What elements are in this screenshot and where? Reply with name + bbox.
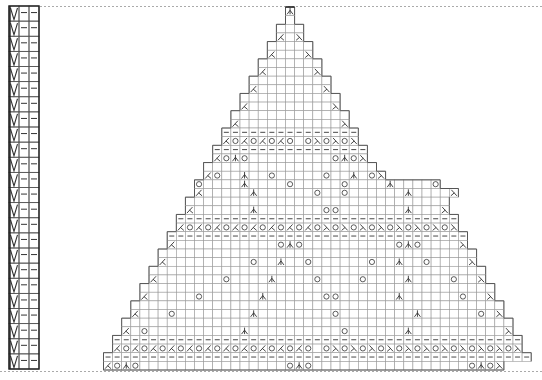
chart-row — [213, 145, 368, 154]
chart-row — [104, 361, 504, 370]
slip-stitch-icon — [11, 295, 18, 307]
slip-stitch-icon — [11, 280, 18, 292]
chart-row — [104, 353, 532, 362]
chart-row — [276, 33, 303, 42]
slip-stitch-icon — [11, 144, 18, 156]
slip-stitch-icon — [11, 356, 18, 368]
slip-stitch-icon — [11, 250, 18, 262]
chart-row — [240, 93, 340, 102]
slip-stitch-icon — [11, 220, 18, 232]
slip-stitch-icon — [11, 190, 18, 202]
slip-stitch-icon — [11, 129, 18, 141]
chart-row — [267, 50, 313, 59]
chart-row — [122, 318, 513, 327]
chart-row — [158, 258, 477, 267]
chart-row — [140, 284, 495, 293]
edge-stitch-column — [9, 6, 39, 369]
chart-row — [131, 301, 504, 310]
chart-row — [167, 240, 467, 249]
chart-row — [122, 327, 513, 336]
knitting-chart — [0, 0, 542, 380]
chart-row — [204, 163, 377, 172]
slip-stitch-icon — [11, 38, 18, 50]
chart-row — [113, 344, 522, 353]
slip-stitch-icon — [11, 8, 18, 20]
slip-stitch-icon — [11, 341, 18, 353]
chart-row — [231, 111, 349, 120]
slip-stitch-icon — [11, 265, 18, 277]
slip-stitch-icon — [11, 84, 18, 96]
slip-stitch-icon — [11, 99, 18, 111]
slip-stitch-icon — [11, 69, 18, 81]
chart-row — [249, 76, 331, 85]
chart-row — [286, 7, 295, 16]
chart-row — [140, 292, 495, 301]
chart-row — [249, 85, 331, 94]
chart-row — [176, 223, 458, 232]
chart-row — [131, 310, 504, 319]
chart-row — [176, 214, 458, 223]
chart-row — [195, 180, 441, 189]
slip-stitch-icon — [11, 205, 18, 217]
slip-stitch-icon — [11, 174, 18, 186]
slip-stitch-icon — [11, 235, 18, 247]
chart-row — [267, 42, 313, 51]
chart-row — [195, 189, 459, 198]
chart-row — [258, 59, 322, 68]
slip-stitch-icon — [11, 114, 18, 126]
chart-row — [240, 102, 340, 111]
chart-row — [286, 16, 295, 25]
slip-stitch-icon — [11, 159, 18, 171]
chart-row — [204, 171, 386, 180]
chart-row — [258, 68, 322, 77]
chart-row — [167, 232, 467, 241]
slip-stitch-icon — [11, 311, 18, 323]
chart-row — [185, 197, 449, 206]
chart-row — [149, 275, 486, 284]
chart-row — [222, 128, 359, 137]
chart-row — [231, 119, 349, 128]
lace-triangle-grid — [104, 7, 532, 370]
chart-row — [149, 266, 486, 275]
slip-stitch-icon — [11, 326, 18, 338]
chart-row — [185, 206, 449, 215]
slip-stitch-icon — [11, 23, 18, 35]
chart-row — [113, 335, 522, 344]
chart-row — [276, 24, 303, 33]
chart-row — [158, 249, 477, 258]
chart-row — [213, 154, 368, 163]
slip-stitch-icon — [11, 53, 18, 65]
chart-row — [222, 137, 359, 146]
